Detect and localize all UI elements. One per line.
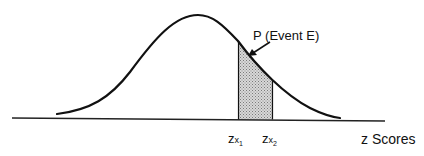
event-arrow-head (248, 49, 257, 56)
event-probability-label: P (Event E) (253, 28, 319, 43)
z-x1-label: zx1 (228, 131, 243, 147)
x-axis-baseline (12, 118, 385, 121)
z-x1-subscript: x1 (235, 135, 243, 145)
event-arrow-shaft (253, 42, 270, 53)
z-x1-sub-index: 1 (239, 140, 243, 147)
z-x2-label: zx2 (262, 131, 277, 147)
x-axis-label: z Scores (361, 131, 415, 147)
z-x2-subscript: x2 (269, 135, 277, 145)
z-x2-sub-index: 2 (273, 140, 277, 147)
